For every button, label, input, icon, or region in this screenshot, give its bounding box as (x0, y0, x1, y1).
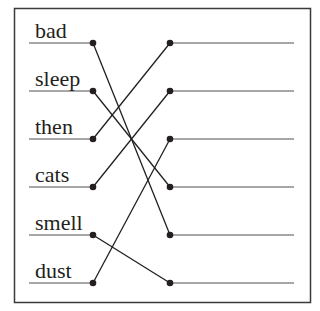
dot-right-5 (167, 232, 174, 239)
dot-left-smell (90, 232, 97, 239)
connector-dust-to-3 (93, 139, 170, 283)
word-label-sleep: sleep (35, 66, 80, 91)
word-label-cats: cats (35, 162, 69, 187)
word-label-then: then (35, 114, 73, 139)
dot-right-4 (167, 184, 174, 191)
connector-then-to-1 (93, 43, 170, 139)
dot-right-6 (167, 280, 174, 287)
word-label-bad: bad (35, 18, 67, 43)
word-label-smell: smell (35, 210, 83, 235)
connector-lines (93, 43, 170, 283)
dot-left-bad (90, 40, 97, 47)
dot-left-dust (90, 280, 97, 287)
connector-smell-to-6 (93, 235, 170, 283)
dot-right-2 (167, 88, 174, 95)
connection-dots (90, 40, 174, 287)
dot-right-1 (167, 40, 174, 47)
dot-left-cats (90, 184, 97, 191)
dot-right-3 (167, 136, 174, 143)
right-answer-lines (170, 43, 294, 283)
dot-left-sleep (90, 88, 97, 95)
word-labels: bad sleep then cats smell dust (35, 18, 83, 283)
matching-diagram: bad sleep then cats smell dust (0, 0, 320, 311)
word-label-dust: dust (35, 258, 72, 283)
dot-left-then (90, 136, 97, 143)
